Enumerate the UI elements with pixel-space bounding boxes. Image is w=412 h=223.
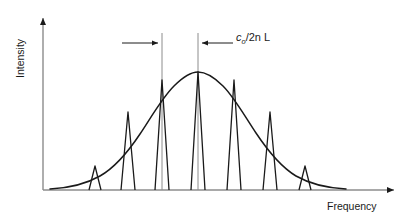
frequency-axis-label: Frequency <box>327 200 377 212</box>
spacing-expression-rest: /2n L <box>246 31 270 43</box>
longitudinal-mode-group <box>89 72 311 190</box>
intensity-axis-label: Intensity <box>14 0 26 78</box>
mode-peak-5 <box>227 80 241 190</box>
plot-canvas <box>0 0 412 223</box>
laser-mode-spectrum-figure: Intensity Frequency co/2n L <box>0 0 412 223</box>
mode-spacing-label: co/2n L <box>236 31 270 46</box>
